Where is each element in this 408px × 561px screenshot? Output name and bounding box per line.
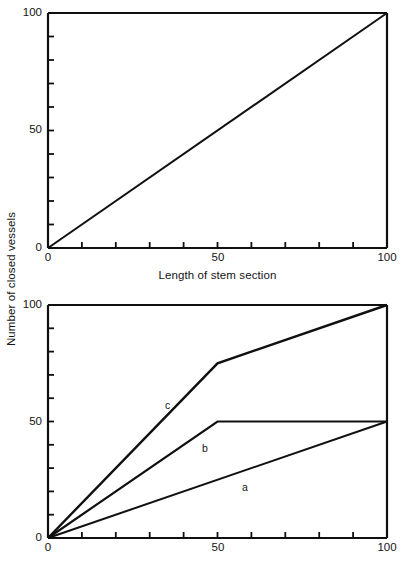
top-x-tick-0: 0 (38, 251, 58, 263)
top-series-reference (48, 13, 387, 248)
bottom-chart-svg (0, 292, 408, 561)
bottom-y-tick-50: 50 (14, 415, 42, 427)
top-chart-panel: 100 50 0 0 50 100 (0, 0, 408, 292)
bottom-x-tick-100: 100 (373, 541, 401, 553)
bottom-x-tick-50: 50 (207, 541, 229, 553)
bottom-chart-panel: 100 50 0 0 50 100 c b a (0, 292, 408, 561)
bottom-y-tick-100: 100 (14, 298, 42, 310)
curve-label-b: b (202, 442, 208, 454)
x-axis-title: Length of stem section (48, 269, 387, 281)
curve-label-c: c (165, 399, 170, 411)
bottom-x-tick-0: 0 (38, 541, 58, 553)
top-x-tick-50: 50 (207, 251, 229, 263)
curve-label-a: a (242, 481, 248, 493)
top-y-tick-100: 100 (14, 6, 42, 18)
bottom-series-a (48, 422, 387, 539)
top-chart-svg (0, 0, 408, 292)
top-x-tick-100: 100 (373, 251, 401, 263)
top-y-tick-50: 50 (14, 123, 42, 135)
figure-root: Number of closed vessels (0, 0, 408, 561)
